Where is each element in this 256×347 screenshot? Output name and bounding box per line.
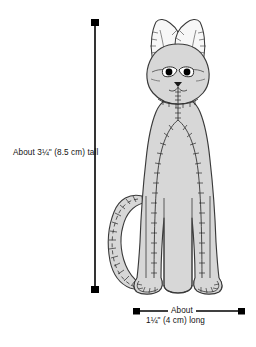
- cat-left-foot: [134, 278, 162, 294]
- cat-figure: [108, 19, 222, 294]
- width-dimension-label-line2: 1¼" (4 cm) long: [146, 316, 205, 326]
- cat-body: [134, 96, 222, 293]
- cat-head: [147, 44, 209, 104]
- width-dimension-label-line1: About: [168, 306, 196, 316]
- cat-toy-illustration: [0, 0, 256, 347]
- cat-right-foot: [194, 278, 222, 294]
- height-dimension-label: About 3¼" (8.5 cm) tall: [13, 148, 98, 158]
